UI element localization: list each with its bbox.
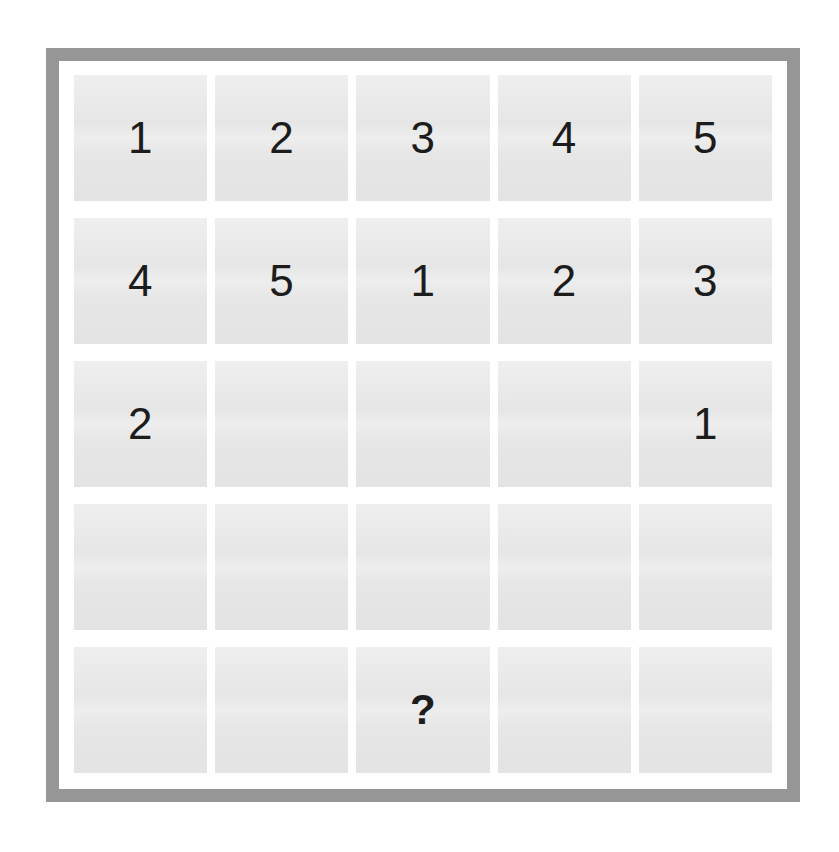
grid-cell-r3c3[interactable] [356,361,489,487]
grid-cell-r3c1[interactable]: 2 [74,361,207,487]
grid-cell-r3c5[interactable]: 1 [639,361,772,487]
cell-value-r1c4: 4 [552,116,577,160]
puzzle-frame-border: 1 2 3 4 5 4 5 [46,48,800,802]
cell-value-r2c2: 5 [269,259,294,303]
grid-cell-r5c5[interactable] [639,647,772,773]
grid-cell-r1c4[interactable]: 4 [498,75,631,201]
cell-value-r2c3: 1 [411,259,436,303]
grid-cell-r3c4[interactable] [498,361,631,487]
grid-cell-r4c4[interactable] [498,504,631,630]
grid-cell-r4c5[interactable] [639,504,772,630]
grid-cell-r2c5[interactable]: 3 [639,218,772,344]
cell-value-r2c1: 4 [128,259,153,303]
cell-value-r3c1: 2 [128,402,153,446]
cell-value-r2c4: 2 [552,259,577,303]
grid-cell-r4c3[interactable] [356,504,489,630]
grid-cell-r5c4[interactable] [498,647,631,773]
grid-cell-r5c2[interactable] [215,647,348,773]
grid-cell-r2c4[interactable]: 2 [498,218,631,344]
grid-cell-r5c3[interactable]: ? [356,647,489,773]
cell-value-r3c5: 1 [693,402,718,446]
grid-cell-r1c5[interactable]: 5 [639,75,772,201]
grid-cell-r2c2[interactable]: 5 [215,218,348,344]
grid-cell-r1c2[interactable]: 2 [215,75,348,201]
grid-cell-r4c2[interactable] [215,504,348,630]
cell-value-r1c1: 1 [128,116,153,160]
grid-cell-r3c2[interactable] [215,361,348,487]
cell-value-r2c5: 3 [693,259,718,303]
puzzle-stage: 1 2 3 4 5 4 5 [0,0,839,852]
cell-value-r1c2: 2 [269,116,294,160]
cell-value-r1c3: 3 [411,116,436,160]
cell-value-r5c3-unknown: ? [410,689,436,731]
puzzle-inner-surface: 1 2 3 4 5 4 5 [59,61,787,789]
grid-cell-r1c3[interactable]: 3 [356,75,489,201]
grid-cell-r5c1[interactable] [74,647,207,773]
grid-cell-r2c3[interactable]: 1 [356,218,489,344]
puzzle-grid: 1 2 3 4 5 4 5 [74,75,772,773]
grid-cell-r1c1[interactable]: 1 [74,75,207,201]
grid-cell-r2c1[interactable]: 4 [74,218,207,344]
grid-cell-r4c1[interactable] [74,504,207,630]
cell-value-r1c5: 5 [693,116,718,160]
